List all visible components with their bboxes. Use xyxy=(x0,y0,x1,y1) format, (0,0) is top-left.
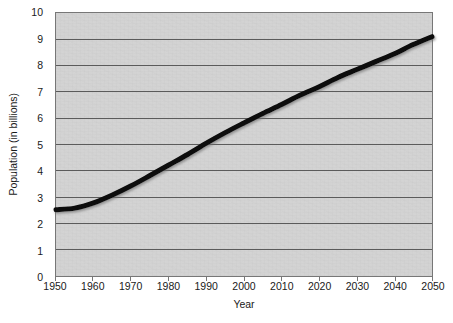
x-axis-tick-label: 2020 xyxy=(308,281,331,292)
x-axis-tick-labels: 1950196019701980199020002010202020302040… xyxy=(55,281,433,297)
x-axis-tick-label: 2040 xyxy=(384,281,407,292)
y-axis-tick-label: 2 xyxy=(37,219,48,230)
population-line-chart: 012345678910 195019601970198019902000201… xyxy=(0,0,453,323)
x-axis-tick-label: 1980 xyxy=(157,281,180,292)
y-axis-tick-label: 7 xyxy=(37,86,48,97)
population-curve xyxy=(56,13,432,276)
y-axis-tick-label: 4 xyxy=(37,166,48,177)
y-axis-tick-label: 10 xyxy=(31,7,48,18)
y-axis-tick-label: 5 xyxy=(37,139,48,150)
x-axis-tick-label: 1960 xyxy=(81,281,104,292)
x-axis-tick-label: 1990 xyxy=(195,281,218,292)
x-axis-title-text: Year xyxy=(233,298,254,310)
y-axis-tick-label: 3 xyxy=(37,192,48,203)
x-axis-tick-label: 2030 xyxy=(346,281,369,292)
y-axis-tick-label: 9 xyxy=(37,33,48,44)
y-axis-tick-label: 8 xyxy=(37,60,48,71)
y-axis-tick-label: 1 xyxy=(37,245,48,256)
y-axis-title-text: Population (in billions) xyxy=(8,93,19,196)
series-line-world-population xyxy=(56,37,432,210)
y-axis-title: Population (in billions) xyxy=(5,12,21,277)
x-axis-title: Year xyxy=(55,299,433,310)
y-axis-tick-label: 6 xyxy=(37,113,48,124)
plot-area xyxy=(55,12,433,277)
x-axis-tick-label: 2000 xyxy=(232,281,255,292)
x-axis-tick-label: 1970 xyxy=(119,281,142,292)
x-axis-tick-label: 2010 xyxy=(270,281,293,292)
x-axis-tick-label: 1950 xyxy=(43,281,66,292)
x-axis-tick-label: 2050 xyxy=(421,281,444,292)
